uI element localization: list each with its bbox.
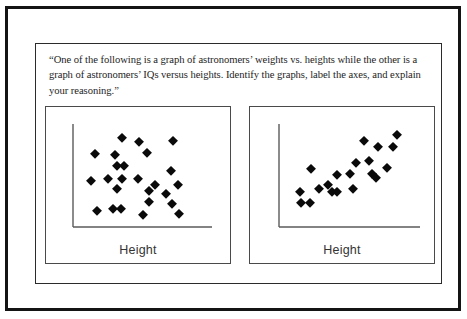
data-point (305, 198, 315, 208)
prompt-text: “One of the following is a graph of astr… (49, 52, 429, 98)
data-point (168, 136, 178, 146)
slide-canvas: “One of the following is a graph of astr… (0, 0, 467, 319)
data-point (92, 205, 102, 215)
data-point (133, 174, 143, 184)
data-point (373, 142, 383, 152)
data-point (359, 136, 369, 146)
data-point (109, 150, 119, 160)
data-point (161, 189, 171, 199)
data-point (112, 184, 122, 194)
data-point (306, 164, 316, 174)
data-point (90, 148, 100, 158)
data-point (166, 166, 176, 176)
content-panel: “One of the following is a graph of astr… (35, 43, 442, 284)
chart-panel-right: Height (249, 106, 435, 264)
x-axis-label-right: Height (250, 243, 434, 257)
data-point (382, 163, 392, 173)
data-point (295, 186, 305, 196)
data-point (332, 170, 342, 180)
data-point (392, 129, 402, 139)
x-axis-label-left: Height (46, 243, 230, 257)
data-point (119, 161, 129, 171)
data-point (117, 133, 127, 143)
plot-area-right (250, 107, 434, 263)
charts-row: Height Height (36, 106, 443, 266)
data-point (117, 174, 127, 184)
data-points-right (250, 107, 436, 265)
data-point (137, 210, 147, 220)
data-point (364, 156, 374, 166)
data-point (103, 174, 113, 184)
data-point (142, 147, 152, 157)
data-point (174, 209, 184, 219)
data-point (134, 137, 144, 147)
data-point (344, 169, 354, 179)
plot-area-left (46, 107, 230, 263)
data-point (388, 142, 398, 152)
data-point (167, 199, 177, 209)
data-point (86, 176, 96, 186)
data-point (173, 180, 183, 190)
data-point (351, 158, 361, 168)
data-point (348, 184, 358, 194)
data-point (116, 204, 126, 214)
data-points-left (46, 107, 232, 265)
data-point (144, 197, 154, 207)
chart-panel-left: Height (45, 106, 231, 264)
outer-frame: “One of the following is a graph of astr… (5, 6, 461, 311)
